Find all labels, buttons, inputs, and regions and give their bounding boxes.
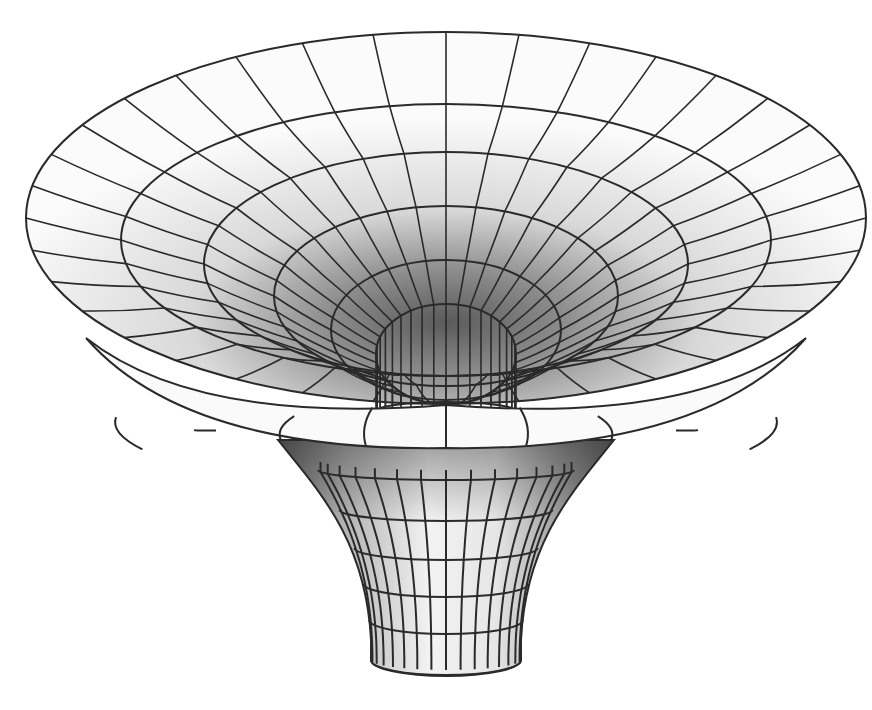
funnel-neck	[278, 440, 614, 676]
gravity-well-diagram	[0, 0, 872, 710]
funnel-bowl	[26, 32, 866, 420]
lip-divider	[115, 417, 142, 449]
lip-divider	[750, 417, 777, 449]
